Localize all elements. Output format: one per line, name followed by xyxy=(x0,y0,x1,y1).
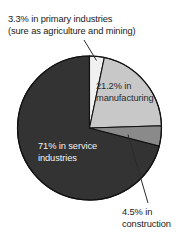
label-manufacturing: 21.2% in manufacturing xyxy=(96,80,154,104)
label-construction-line1: 4.5% in xyxy=(122,206,188,218)
label-service-industries-line1: 71% in service xyxy=(38,140,97,152)
pie-chart-graphic xyxy=(0,0,189,238)
label-service-industries: 71% in service industries xyxy=(38,140,97,164)
label-service-industries-line2: industries xyxy=(38,152,97,164)
label-construction: 4.5% in construction xyxy=(122,206,188,230)
label-construction-line2: construction xyxy=(122,218,188,230)
label-manufacturing-line2: manufacturing xyxy=(96,92,154,104)
pie-chart-figure: 3.3% in primary industries (sure as agri… xyxy=(0,0,189,238)
label-manufacturing-line1: 21.2% in xyxy=(96,80,154,92)
